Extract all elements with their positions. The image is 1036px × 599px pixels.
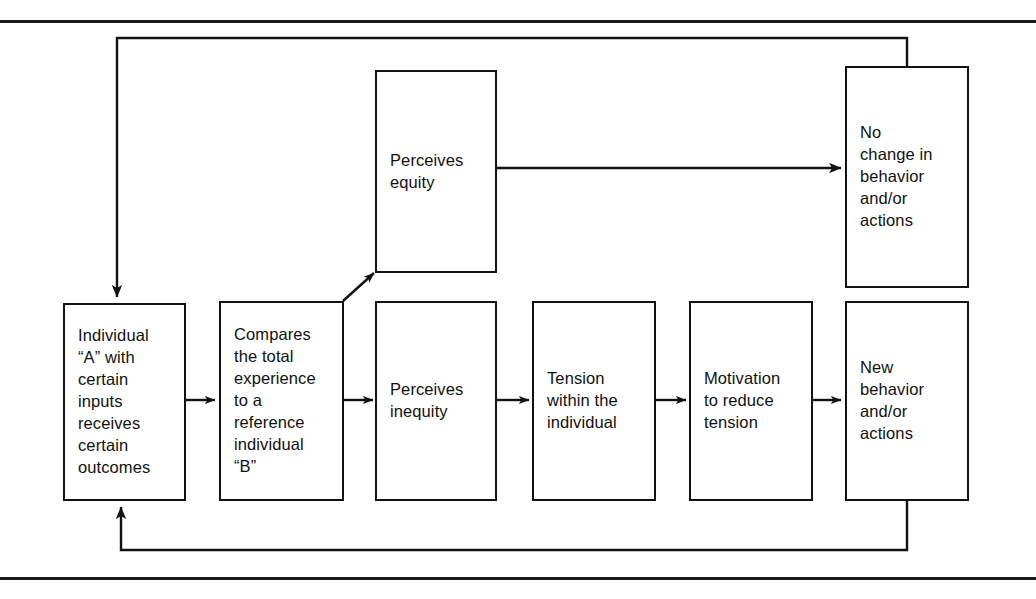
equity-theory-diagram: Individual “A” with certain inputs recei… [0,0,1036,599]
node-no-change-label: No change in behavior and/or actions [847,122,938,232]
node-perceives-inequity: Perceives inequity [375,301,497,501]
bottom-rule [0,577,1036,580]
arrow-new-behavior-feedback-to-individual-a [121,501,907,550]
arrow-no-change-feedback-to-individual-a [117,38,907,297]
arrow-compares-to-perceives-equity [343,273,374,301]
node-individual-a: Individual “A” with certain inputs recei… [63,303,186,501]
node-individual-a-label: Individual “A” with certain inputs recei… [65,325,156,479]
node-perceives-inequity-label: Perceives inequity [377,379,469,423]
node-motivation: Motivation to reduce tension [689,301,813,501]
node-compares: Compares the total experience to a refer… [219,301,344,501]
node-new-behavior-label: New behavior and/or actions [847,357,930,445]
node-perceives-equity-label: Perceives equity [377,150,469,194]
top-rule [0,20,1036,23]
node-tension-label: Tension within the individual [534,368,624,434]
node-perceives-equity: Perceives equity [375,70,497,273]
node-no-change: No change in behavior and/or actions [845,66,969,288]
node-motivation-label: Motivation to reduce tension [691,368,786,434]
node-new-behavior: New behavior and/or actions [845,301,969,501]
node-compares-label: Compares the total experience to a refer… [221,324,322,478]
node-tension: Tension within the individual [532,301,656,501]
